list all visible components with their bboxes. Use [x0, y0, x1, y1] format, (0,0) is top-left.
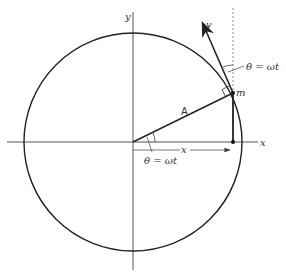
angle-arc-center: [153, 133, 155, 143]
mass-label: m: [236, 87, 245, 98]
angle-label-center: θ = ωt: [144, 155, 178, 166]
angle-leader-tangent: [228, 66, 244, 72]
radius-line: [133, 93, 233, 142]
radius-label: A: [181, 106, 188, 117]
diagram-canvas: y x v m A x θ = ωt θ = ωt: [0, 0, 286, 276]
angle-label-tangent: θ = ωt: [246, 61, 280, 72]
angle-arc-tangent: [223, 65, 233, 67]
y-axis-label: y: [124, 11, 131, 22]
projection-point: [231, 140, 235, 144]
mass-point: [231, 91, 235, 95]
circular-motion-diagram: y x v m A x θ = ωt θ = ωt: [0, 0, 286, 276]
x-axis-label: x: [260, 137, 266, 148]
velocity-label: v: [206, 19, 212, 30]
velocity-vector: [203, 24, 233, 93]
displacement-label: x: [181, 144, 187, 155]
